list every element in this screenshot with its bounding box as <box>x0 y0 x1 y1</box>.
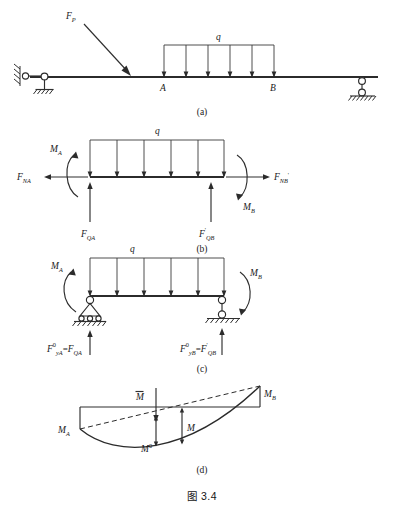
moment-arc-a-c <box>64 269 76 313</box>
axial-force-a-label: FNA <box>16 172 31 184</box>
moment-arc-b-c <box>239 272 250 316</box>
moment-mean-label: M <box>135 392 145 403</box>
reaction-a-label: F0yA=FQA <box>46 341 82 355</box>
support-left-a <box>14 64 54 94</box>
shear-force-a-arrow <box>87 182 92 222</box>
moment-zero-label: M0 <box>140 442 152 454</box>
panel-tag-d: (d) <box>196 465 207 476</box>
distributed-load-b <box>88 140 227 178</box>
moment-b-label-c: MB <box>249 268 262 280</box>
panel-tag-b: (b) <box>196 244 207 255</box>
axial-force-b-arrow <box>226 174 270 180</box>
moment-arc-b-b <box>236 155 247 201</box>
panel-b: q MA MB FNA FNB' <box>16 126 289 255</box>
moment-curve <box>80 386 260 447</box>
axial-force-a-arrow <box>44 174 88 180</box>
ordinate-m0 <box>154 416 158 447</box>
shear-force-b-arrow <box>208 182 213 222</box>
panel-c: q <box>46 244 262 375</box>
point-load-label: FP <box>65 11 76 23</box>
moment-a-label-b: MA <box>49 144 62 156</box>
moment-a-label-c: MA <box>50 261 63 273</box>
reaction-b-arrow <box>219 328 224 355</box>
node-b-label: B <box>270 83 276 93</box>
svg-text:M: M <box>135 392 145 402</box>
figure-caption: 图 3.4 <box>187 490 217 502</box>
reaction-b-label: F0yB=F'QB <box>179 341 216 355</box>
distributed-load-a <box>162 45 277 78</box>
panel-d: M M0 M MA MB (d) <box>57 386 276 476</box>
node-a-label: A <box>159 83 166 93</box>
panel-a: FP q A B (a) <box>14 11 378 118</box>
support-pin-a-c <box>73 296 107 326</box>
support-right-a <box>349 78 377 101</box>
figure-root: FP q A B (a) <box>0 0 405 515</box>
panel-tag-c: (c) <box>197 364 208 375</box>
distributed-load-label-b: q <box>155 126 160 136</box>
distributed-load-c <box>88 258 227 297</box>
support-roller-b-c <box>206 296 241 323</box>
moment-total-label: M <box>186 423 196 433</box>
moment-b-label-d: MB <box>263 389 276 401</box>
moment-a-label-d: MA <box>57 425 70 437</box>
panel-tag-a: (a) <box>197 107 208 118</box>
shear-force-b-label: F'QB <box>198 226 215 240</box>
point-load-arrow-a <box>84 24 131 76</box>
axial-force-b-label: FNB' <box>273 171 289 184</box>
distributed-load-label-c: q <box>130 244 135 254</box>
moment-arc-a-b <box>67 152 78 198</box>
moment-b-label-b: MB <box>242 202 255 214</box>
shear-force-a-label: FQA <box>80 229 95 241</box>
figure-svg: FP q A B (a) <box>0 0 405 515</box>
distributed-load-label-a: q <box>216 32 221 42</box>
reaction-a-arrow <box>87 330 92 355</box>
